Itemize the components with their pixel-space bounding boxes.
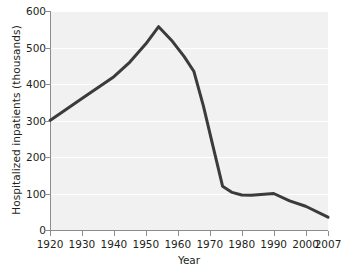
- gridline: [50, 84, 328, 85]
- y-tick-mark: [44, 11, 50, 12]
- x-tick-mark: [274, 231, 275, 236]
- y-tick-label: 600: [20, 6, 46, 16]
- gridline: [50, 194, 328, 195]
- x-tick-mark: [210, 231, 211, 236]
- y-tick-mark: [44, 48, 50, 49]
- gridline: [50, 157, 328, 158]
- x-tick-mark: [178, 231, 179, 236]
- y-tick-mark: [44, 194, 50, 195]
- y-tick-label: 300: [20, 116, 46, 126]
- gridline: [50, 48, 328, 49]
- y-tick-mark: [44, 84, 50, 85]
- gridline: [50, 11, 328, 12]
- x-tick-label: 2007: [308, 238, 346, 250]
- x-axis-line: [50, 230, 328, 231]
- x-tick-mark: [306, 231, 307, 236]
- y-axis-tick-labels: 0100200300400500600: [18, 0, 46, 273]
- gridline: [50, 121, 328, 122]
- y-tick-label: 0: [20, 225, 46, 235]
- x-tick-mark: [114, 231, 115, 236]
- x-tick-mark: [328, 231, 329, 236]
- y-tick-mark: [44, 121, 50, 122]
- y-tick-label: 400: [20, 79, 46, 89]
- x-tick-mark: [146, 231, 147, 236]
- plot-area: [50, 11, 328, 230]
- x-tick-mark: [82, 231, 83, 236]
- x-tick-mark: [242, 231, 243, 236]
- y-axis-line: [50, 11, 51, 230]
- y-tick-mark: [44, 157, 50, 158]
- x-tick-mark: [50, 231, 51, 236]
- y-tick-label: 100: [20, 189, 46, 199]
- y-tick-label: 200: [20, 152, 46, 162]
- x-axis-title: Year: [50, 254, 328, 266]
- y-tick-label: 500: [20, 43, 46, 53]
